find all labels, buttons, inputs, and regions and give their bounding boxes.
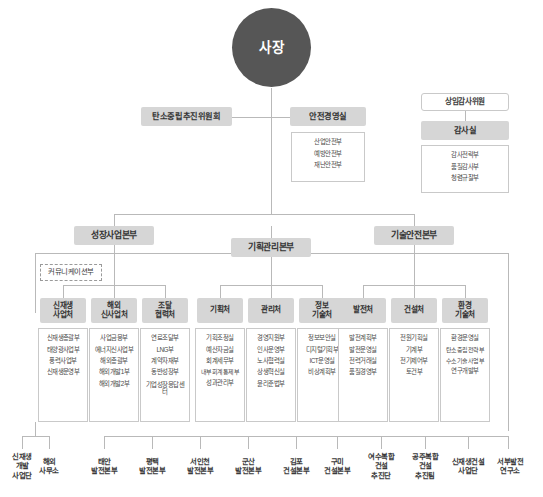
node-field-unit-line: 공주복합 [402,452,448,461]
list-item: 노사협력실 [256,356,285,367]
node-dept-overseas[interactable]: 해외 신사업처 [91,298,137,323]
node-carbon-committee-label: 탄소중립추진위원회 [152,112,220,122]
node-division-growth[interactable]: 성장사업본부 [74,226,154,245]
panel-dept-items-9: 환경운영실 탄소중립전략부 수소기술사업부 연구개발부 [440,328,490,422]
list-item: 전기제어부 [399,356,428,367]
node-field-unit-line: 사업단 [443,466,493,475]
connector-carbon-link [232,117,290,118]
node-dept-label-line: 신사업처 [101,311,127,320]
node-ceo[interactable]: 사장 [232,8,311,87]
node-carbon-committee[interactable]: 탄소중립추진위원회 [141,107,232,126]
list-item: 수소기술사업부 [445,355,485,366]
node-field-unit-11[interactable]: 신재생건설 사업단 [443,457,493,476]
node-field-unit-12[interactable]: 서부발전 연구소 [487,457,533,476]
node-field-unit-line: 군산 [228,457,268,466]
list-item: 해외총괄부 [99,356,128,367]
node-field-unit-10[interactable]: 공주복합 건설 추진팀 [402,452,448,480]
node-dept-environment[interactable]: 환경 기술처 [442,298,488,323]
node-field-unit-6[interactable]: 군산 발전본부 [228,457,268,476]
connector-dept-5 [271,285,272,298]
node-field-unit-line: 건설본부 [276,466,316,475]
connector-div-growth [114,214,115,226]
node-field-unit-line: 사무소 [29,466,69,475]
list-item: 환경운영실 [450,333,479,344]
connector-field-8 [337,436,338,449]
node-dept-label-line: 기술처 [312,311,332,320]
panel-safety-items: 산업안전부 예방안전부 재난안전부 [291,132,365,182]
connector-left-field-bus [22,436,49,437]
node-dept-sinjaesaeng[interactable]: 신재생 사업처 [40,298,86,323]
node-field-unit-9[interactable]: 여수복합 건설 추진단 [358,452,404,480]
node-safety-office[interactable]: 안전경영실 [290,107,366,126]
list-item: 풍력사업부 [48,356,77,367]
node-field-unit-line: 발전본부 [84,466,124,475]
node-division-planning[interactable]: 기획관리본부 [231,238,311,257]
node-field-unit-line: 김포 [276,457,316,466]
list-item: 예산자금실 [205,344,234,355]
node-dept-it[interactable]: 정보 기술처 [299,298,345,323]
node-field-unit-line: 발전본부 [132,466,172,475]
list-item: 해외개발1부 [98,367,130,378]
list-item: 계약자재부 [150,356,179,367]
list-item: 전원기획실 [399,333,428,344]
node-field-unit-2[interactable]: 해외 사무소 [29,457,69,476]
connector-ceo-to-divisions [271,117,272,214]
node-field-unit-line: 연구소 [487,466,533,475]
node-division-tech-label: 기술안전본부 [391,230,437,240]
node-dept-planning[interactable]: 기획처 [197,298,243,323]
node-safety-office-label: 안전경영실 [309,112,347,122]
node-field-unit-line: 발전본부 [180,466,220,475]
node-field-unit-line: 발전본부 [228,466,268,475]
panel-audit-items: 감사전략부 품질감사부 청렴규찰부 [421,145,509,193]
node-dept-power[interactable]: 발전처 [340,298,386,323]
connector-field-7 [296,436,297,449]
node-dept-label-line: 발전처 [353,306,373,315]
connector-dept-8 [414,285,415,298]
connector-right-drop [508,253,509,431]
node-standing-auditor-label: 상임감사위원 [445,98,485,107]
node-field-unit-line: 구미 [317,457,357,466]
node-standing-auditor[interactable]: 상임감사위원 [421,93,509,111]
list-item: LNG부 [156,344,175,355]
panel-dept-items-5: 경영지원부 인사운영부 노사협력실 상생혁신실 윤리준법부 [246,328,296,422]
node-dept-label-line: 관리처 [261,306,281,315]
node-field-unit-line: 서인천 [180,457,220,466]
node-division-planning-label: 기획관리본부 [248,242,294,252]
list-item: 에너지신사업부 [94,344,134,355]
connector-field-3 [104,436,105,449]
list-item: 사업금융부 [99,333,128,344]
node-dept-construction[interactable]: 건설처 [391,298,437,323]
list-item: ICT운영실 [309,356,336,367]
list-item: 연료조달부 [150,333,179,344]
panel-dept-items-8: 전원기획실 기계부 전기제어부 토건부 [389,328,439,422]
node-audit-office[interactable]: 감사실 [421,121,509,140]
connector-field-10 [425,436,426,449]
node-field-unit-line: 신재생건설 [443,457,493,466]
connector-div-tech [414,214,415,226]
node-field-unit-3[interactable]: 태안 발전본부 [84,457,124,476]
node-field-unit-4[interactable]: 평택 발전본부 [132,457,172,476]
node-dept-procurement[interactable]: 조달 협력처 [142,298,188,323]
list-item: 해외개발2부 [98,378,130,389]
connector-field-1 [22,436,23,449]
list-item: 청렴규찰부 [450,173,479,184]
list-item: 비상계획부 [307,367,336,378]
node-communications[interactable]: 커뮤니케이션부 [40,264,102,281]
connector-left-drop [35,253,36,313]
list-item: 발전계획부 [348,333,377,344]
connector-dept-6 [322,285,323,298]
panel-dept-items-1: 신재생총괄부 태양광사업부 풍력사업부 신재생운영부 [38,328,88,422]
node-dept-label-line: 건설처 [404,306,424,315]
node-field-unit-5[interactable]: 서인천 발전본부 [180,457,220,476]
list-item: 상생혁신실 [256,367,285,378]
node-field-unit-7[interactable]: 김포 건설본부 [276,457,316,476]
connector-field-11 [468,436,469,449]
connector-field-6 [248,436,249,449]
node-dept-label-line: 기술처 [455,311,475,320]
connector-ceo-down [271,88,272,117]
node-field-unit-8[interactable]: 구미 건설본부 [317,457,357,476]
node-division-tech[interactable]: 기술안전본부 [374,226,454,245]
list-item: 토건부 [405,367,423,378]
node-dept-label-line: 협력처 [155,311,175,320]
node-dept-management[interactable]: 관리처 [248,298,294,323]
